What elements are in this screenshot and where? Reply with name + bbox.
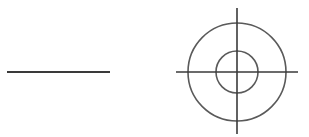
diagram-canvas <box>0 0 309 137</box>
crosshair-target-icon <box>176 8 298 134</box>
